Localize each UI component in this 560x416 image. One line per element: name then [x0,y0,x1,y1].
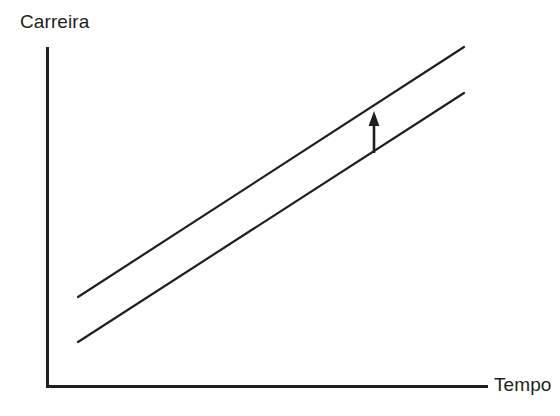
upper-trend-line [78,47,464,297]
figure-canvas [0,0,560,416]
arrow-head [369,111,380,126]
upward-shift-arrow [369,111,380,153]
x-axis-label: Tempo [494,374,552,396]
lower-trend-line [78,93,464,342]
career-over-time-figure: Carreira Tempo [0,0,560,416]
y-axis-label: Carreira [20,11,89,33]
